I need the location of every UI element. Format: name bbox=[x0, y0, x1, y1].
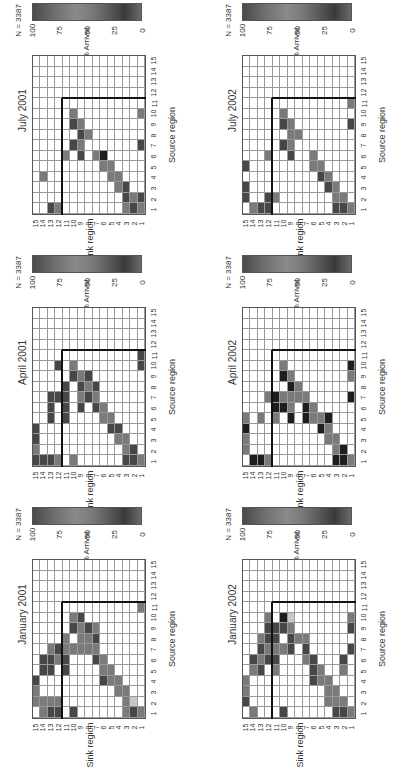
heatmap-cell bbox=[63, 329, 70, 340]
heatmap-cell bbox=[258, 182, 265, 193]
heatmap-cell bbox=[325, 445, 332, 456]
sink-tick-label: 2 bbox=[341, 473, 348, 477]
heatmap-cell bbox=[93, 445, 100, 456]
heatmap-cell bbox=[273, 350, 280, 361]
heatmap-cell bbox=[303, 119, 310, 130]
heatmap-cell bbox=[280, 455, 287, 466]
heatmap-cell bbox=[85, 193, 92, 204]
heatmap-cell bbox=[85, 602, 92, 613]
heatmap-cell bbox=[108, 634, 115, 645]
source-tick-label: 10 bbox=[150, 110, 157, 118]
heatmap-cell bbox=[138, 77, 145, 88]
region-boundary-line bbox=[62, 601, 146, 603]
heatmap-cell bbox=[288, 151, 295, 162]
heatmap-cell bbox=[250, 109, 257, 120]
heatmap-cell bbox=[318, 151, 325, 162]
source-tick-label: 4 bbox=[150, 428, 157, 432]
heatmap-cell bbox=[295, 172, 302, 183]
heatmap-cell bbox=[48, 340, 55, 351]
heatmap-cell bbox=[100, 350, 107, 361]
heatmap-cell bbox=[333, 319, 340, 330]
heatmap-cell bbox=[115, 602, 122, 613]
heatmap-cell bbox=[303, 350, 310, 361]
heatmap-cell bbox=[310, 329, 317, 340]
heatmap-cell bbox=[130, 707, 137, 718]
heatmap-cell bbox=[295, 434, 302, 445]
heatmap-cell bbox=[63, 77, 70, 88]
heatmap-cell bbox=[250, 434, 257, 445]
heatmap-cell bbox=[280, 109, 287, 120]
source-tick-label: 12 bbox=[150, 592, 157, 600]
heatmap-cell bbox=[295, 182, 302, 193]
heatmap-cell bbox=[63, 613, 70, 624]
heatmap-cell bbox=[40, 151, 47, 162]
heatmap-cell bbox=[108, 571, 115, 582]
heatmap-cell bbox=[70, 161, 77, 172]
heatmap-cell bbox=[295, 119, 302, 130]
heatmap-cell bbox=[340, 655, 347, 666]
heatmap-cell bbox=[250, 403, 257, 414]
source-tick-label: 14 bbox=[360, 319, 367, 327]
heatmap-cell bbox=[108, 613, 115, 624]
heatmap-cell bbox=[250, 602, 257, 613]
heatmap-cell bbox=[93, 697, 100, 708]
heatmap-cell bbox=[295, 613, 302, 624]
heatmap-cell bbox=[265, 319, 272, 330]
heatmap-cell bbox=[63, 707, 70, 718]
heatmap-cell bbox=[288, 644, 295, 655]
sink-tick-label: 1 bbox=[139, 725, 146, 729]
heatmap-cell bbox=[318, 67, 325, 78]
heatmap-cell bbox=[280, 77, 287, 88]
heatmap-cell bbox=[63, 109, 70, 120]
heatmap-cell bbox=[333, 151, 340, 162]
sink-tick-label: 14 bbox=[250, 219, 257, 227]
heatmap-cell bbox=[303, 203, 310, 214]
heatmap-cell bbox=[70, 676, 77, 687]
heatmap-cell bbox=[33, 119, 40, 130]
heatmap-cell bbox=[325, 119, 332, 130]
heatmap-cell bbox=[333, 403, 340, 414]
heatmap-cell bbox=[340, 161, 347, 172]
sink-tick-label: 15 bbox=[242, 723, 249, 731]
heatmap-cell bbox=[63, 308, 70, 319]
heatmap-cell bbox=[85, 361, 92, 372]
heatmap-cell bbox=[243, 203, 250, 214]
heatmap-cell bbox=[250, 140, 257, 151]
heatmap-cell bbox=[333, 571, 340, 582]
heatmap-cell bbox=[123, 602, 130, 613]
heatmap-cell bbox=[93, 67, 100, 78]
heatmap-cell bbox=[115, 161, 122, 172]
heatmap-cell bbox=[303, 707, 310, 718]
heatmap-cell bbox=[273, 655, 280, 666]
heatmap-cell bbox=[340, 119, 347, 130]
heatmap-cell bbox=[130, 665, 137, 676]
heatmap-cell bbox=[40, 455, 47, 466]
heatmap-cell bbox=[340, 644, 347, 655]
heatmap-cell bbox=[340, 77, 347, 88]
heatmap-cell bbox=[70, 350, 77, 361]
heatmap-cell bbox=[70, 665, 77, 676]
source-tick-label: 1 bbox=[360, 208, 367, 212]
heatmap-cell bbox=[48, 67, 55, 78]
heatmap-cell bbox=[63, 203, 70, 214]
heatmap-cell bbox=[40, 130, 47, 141]
heatmap-cell bbox=[258, 403, 265, 414]
heatmap-cell bbox=[138, 697, 145, 708]
source-tick-label: 11 bbox=[151, 99, 158, 106]
heatmap-cell bbox=[123, 56, 130, 67]
heatmap-cell bbox=[63, 371, 70, 382]
heatmap-cell bbox=[348, 371, 355, 382]
heatmap-cell bbox=[108, 434, 115, 445]
heatmap-cell bbox=[325, 434, 332, 445]
colorbar-tick: 75 bbox=[55, 530, 64, 539]
heatmap-grid bbox=[242, 55, 356, 215]
heatmap-cell bbox=[33, 151, 40, 162]
heatmap-cell bbox=[115, 203, 122, 214]
heatmap-cell bbox=[93, 371, 100, 382]
heatmap-cell bbox=[85, 56, 92, 67]
heatmap-cell bbox=[85, 151, 92, 162]
heatmap-cell bbox=[280, 140, 287, 151]
heatmap-cell bbox=[85, 182, 92, 193]
heatmap-cell bbox=[325, 424, 332, 435]
heatmap-cell bbox=[85, 329, 92, 340]
